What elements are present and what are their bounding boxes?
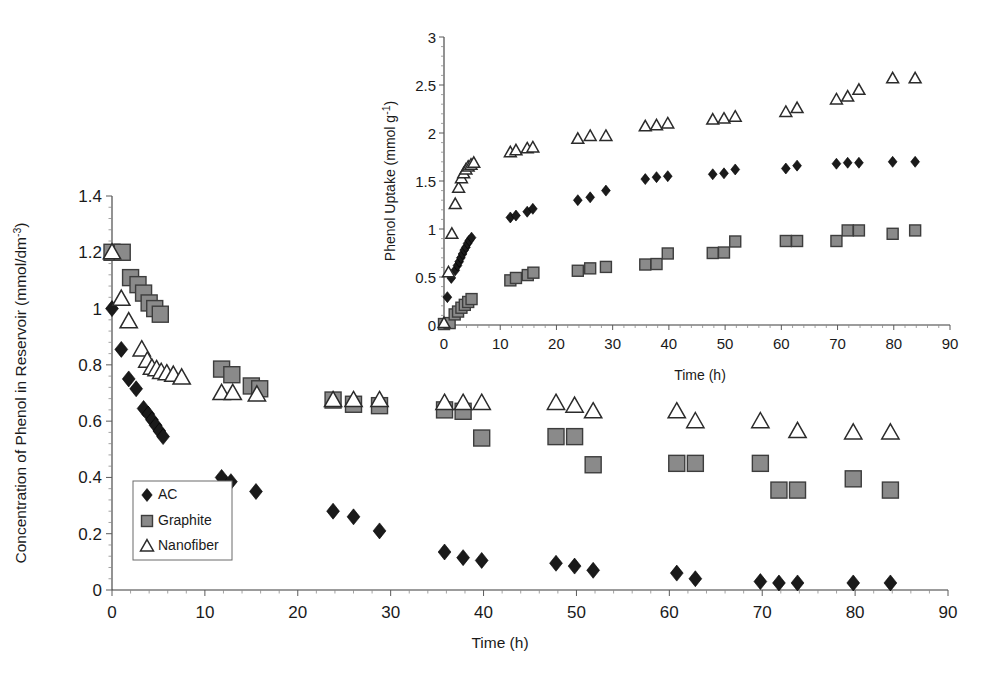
inset-plot-x-tick-label: 70 <box>829 335 846 352</box>
main-x-axis-title: Time (h) <box>471 634 528 651</box>
inset-plot-x-tick-label: 30 <box>604 335 621 352</box>
inset-plot-y-tick-label: 2.5 <box>415 77 436 94</box>
data-point-nanofiber <box>585 403 602 418</box>
main-plot-x-tick-label: 0 <box>107 603 116 622</box>
inset-plot-y-tick-label: 1.5 <box>415 173 436 190</box>
legend-item-label: Graphite <box>158 512 212 528</box>
data-point-ac <box>791 575 804 591</box>
legend-item-ac[interactable]: AC <box>142 486 178 502</box>
data-point-nanofiber <box>909 72 921 82</box>
data-point-ac <box>754 574 767 590</box>
data-point-ac <box>731 164 740 175</box>
data-point-nanofiber <box>600 130 612 140</box>
data-point-ac <box>568 558 581 574</box>
main-plot-x-tick-label: 70 <box>753 603 772 622</box>
data-point-graphite <box>585 263 596 274</box>
inset-y-axis-title-text: Phenol Uptake (mmol g-1) <box>380 101 398 261</box>
data-point-graphite <box>662 248 673 259</box>
data-point-ac <box>550 555 563 571</box>
data-point-nanofiber <box>547 394 564 409</box>
data-point-nanofiber <box>718 113 730 123</box>
data-point-graphite <box>510 272 521 283</box>
inset-plot-x-tick-label: 10 <box>492 335 509 352</box>
main-plot-y-tick-label: 0.8 <box>78 356 102 375</box>
data-point-graphite <box>771 482 787 498</box>
data-point-nanofiber <box>446 228 458 238</box>
data-point-nanofiber <box>752 413 769 428</box>
inset-y-axis-title-sup: -1 <box>380 105 392 114</box>
data-point-nanofiber <box>572 133 584 143</box>
main-plot-y-tick-label: 0.2 <box>78 525 102 544</box>
data-point-nanofiber <box>639 120 651 130</box>
inset-y-axis-title-tail: ) <box>382 101 398 106</box>
data-point-ac <box>847 575 860 591</box>
data-point-graphite <box>790 482 806 498</box>
data-point-graphite <box>567 429 583 445</box>
data-point-graphite <box>142 516 153 527</box>
data-point-nanofiber <box>662 117 674 127</box>
data-point-ac <box>855 157 864 168</box>
data-point-graphite <box>730 236 741 247</box>
data-point-ac <box>373 523 386 539</box>
data-point-ac <box>888 156 897 167</box>
main-plot-x-tick-label: 20 <box>288 603 307 622</box>
data-point-graphite <box>224 367 240 383</box>
data-point-graphite <box>572 265 583 276</box>
inset-plot-y-tick-label: 1 <box>428 221 436 238</box>
main-plot-y-tick-label: 0.6 <box>78 412 102 431</box>
data-point-graphite <box>752 455 768 471</box>
data-point-ac <box>670 565 683 581</box>
data-point-ac <box>586 192 595 203</box>
inset-plot-y-tick-label: 2 <box>428 125 436 142</box>
data-point-ac <box>438 544 451 560</box>
data-point-nanofiber <box>845 424 862 439</box>
main-plot-x-tick-label: 30 <box>381 603 400 622</box>
data-point-nanofiber <box>707 114 719 124</box>
data-point-graphite <box>707 248 718 259</box>
inset-y-axis-title-main: Phenol Uptake (mmol g <box>382 115 398 261</box>
data-point-ac <box>832 158 841 169</box>
data-point-graphite <box>548 429 564 445</box>
inset-plot: 010203040506070809000.511.522.53 <box>415 29 958 353</box>
inset-y-axis-title: Phenol Uptake (mmol g-1) <box>380 101 398 261</box>
legend-item-label: Nanofiber <box>158 537 219 553</box>
data-point-graphite <box>585 457 601 473</box>
main-plot-x-tick-label: 60 <box>660 603 679 622</box>
inset-plot-series-nanofiber <box>438 72 921 327</box>
data-point-ac <box>663 171 672 182</box>
main-plot-x-tick-label: 90 <box>939 603 958 622</box>
main-y-axis-title-tail: ) <box>12 222 29 227</box>
data-point-ac <box>327 503 340 519</box>
data-point-nanofiber <box>887 72 899 82</box>
inset-plot-x-tick-label: 90 <box>942 335 959 352</box>
main-y-axis-title: Concentration of Phenol in Reservoir (mm… <box>11 222 29 563</box>
data-point-ac <box>708 169 717 180</box>
data-point-ac <box>457 550 470 566</box>
main-plot-x-tick-label: 10 <box>195 603 214 622</box>
data-point-ac <box>843 157 852 168</box>
data-point-graphite <box>853 225 864 236</box>
data-point-nanofiber <box>113 290 130 305</box>
data-point-graphite <box>600 261 611 272</box>
data-point-ac <box>652 172 661 183</box>
data-point-graphite <box>780 236 791 247</box>
data-point-nanofiber <box>454 394 471 409</box>
inset-plot-y-tick-label: 3 <box>428 29 436 46</box>
data-point-nanofiber <box>449 198 461 208</box>
data-point-ac <box>773 575 786 591</box>
data-point-graphite <box>831 236 842 247</box>
inset-plot-y-tick-label: 0.5 <box>415 269 436 286</box>
data-point-nanofiber <box>842 91 854 101</box>
data-point-ac <box>720 168 729 179</box>
data-point-ac <box>781 163 790 174</box>
data-point-ac <box>475 552 488 568</box>
data-point-graphite <box>910 225 921 236</box>
inset-plot-series-ac <box>440 156 920 328</box>
figure-svg: 010203040506070809000.20.40.60.811.21.4T… <box>0 0 990 689</box>
data-point-graphite <box>887 228 898 239</box>
data-point-nanofiber <box>882 424 899 439</box>
main-y-axis-title-text: Concentration of Phenol in Reservoir (mm… <box>11 222 29 563</box>
main-plot-y-tick-label: 0.4 <box>78 468 102 487</box>
data-point-graphite <box>152 306 168 322</box>
inset-plot-x-tick-label: 80 <box>885 335 902 352</box>
